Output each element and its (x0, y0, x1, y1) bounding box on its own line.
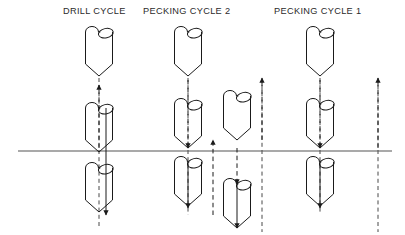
drill-flute-lobe-left (86, 26, 99, 32)
diagram-canvas (0, 0, 405, 235)
drill-flute-lobe-right (319, 99, 336, 111)
drill-peck-depth (175, 156, 204, 206)
drill-flute-lobe-left (307, 156, 320, 162)
drill-retracted-above (175, 26, 204, 76)
drill-flute-lobe-left (307, 98, 320, 104)
drill-at-surface (307, 98, 336, 148)
drill-flute-lobe-right (319, 27, 336, 39)
drill-retracted-above (224, 90, 253, 140)
drill-flute-lobe-right (187, 27, 204, 39)
drill-flute-lobe-right (319, 157, 336, 169)
drill-body-outline (86, 32, 113, 76)
drill-flute-lobe-right (187, 99, 204, 111)
drill-flute-lobe-left (86, 102, 99, 108)
drill-retracted-above (307, 26, 336, 76)
drill-at-depth (307, 156, 336, 206)
drill-flute-lobe-right (187, 157, 204, 169)
drill-flute-lobe-left (175, 26, 188, 32)
drill-flute-lobe-left (175, 98, 188, 104)
drill-retracted-above (86, 26, 115, 76)
drill-flute-lobe-left (224, 178, 237, 184)
drill-flute-lobe-left (175, 156, 188, 162)
drill-flute-lobe-left (307, 26, 320, 32)
drill-at-surface (86, 102, 115, 152)
drill-body-outline (224, 96, 251, 140)
drill-at-surface (175, 98, 204, 148)
drill-flute-lobe-right (236, 179, 253, 191)
drill-cycle-diagram: DRILL CYCLE PECKING CYCLE 2 PECKING CYCL… (0, 0, 405, 235)
drill-flute-lobe-right (236, 91, 253, 103)
drill-body-outline (175, 32, 202, 76)
drill-at-depth (86, 162, 115, 212)
drill-flute-lobe-left (86, 162, 99, 168)
drills-layer (86, 26, 336, 228)
drill-body-outline (307, 32, 334, 76)
motion-arrows-layer (99, 78, 378, 228)
drill-flute-lobe-right (98, 27, 115, 39)
drill-second-peck (224, 178, 253, 228)
drill-flute-lobe-left (224, 90, 237, 96)
